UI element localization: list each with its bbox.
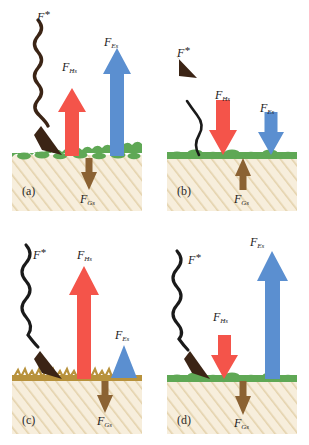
- latent-heat-arrow-a: [103, 48, 131, 156]
- radiation-arrow-b: [175, 55, 202, 155]
- latent-heat-arrow-c: [111, 345, 137, 378]
- panel-letter-b: (b): [177, 184, 191, 199]
- panel-d: F* FHs FEs FGs (d): [155, 223, 309, 445]
- sensible-heat-arrow-b: [209, 100, 237, 155]
- panel-letter-c: (c): [22, 413, 35, 428]
- sensible-heat-arrow-d: [211, 335, 238, 379]
- panel-b: F* FHs FEs FGs (b): [155, 0, 309, 222]
- figure-container: F* FHs FEs FGs (a): [0, 0, 309, 445]
- panel-letter-a: (a): [22, 184, 35, 199]
- latent-heat-arrow-d: [257, 251, 288, 379]
- soil-block-a: [12, 155, 142, 211]
- soil-block-b: [167, 155, 297, 211]
- sensible-heat-arrow-c: [69, 266, 99, 379]
- radiation-arrow-c: [22, 245, 62, 379]
- panel-c: F* FHs FEs FGs (c): [0, 223, 154, 445]
- latent-heat-arrow-b: [258, 112, 284, 155]
- radiation-arrow-a: [34, 20, 62, 155]
- panel-letter-d: (d): [177, 413, 191, 428]
- sensible-heat-arrow-a: [58, 88, 86, 156]
- panel-a: F* FHs FEs FGs (a): [0, 0, 154, 222]
- green-vegetation-layer-b: [167, 150, 297, 159]
- radiation-arrow-d: [173, 251, 210, 379]
